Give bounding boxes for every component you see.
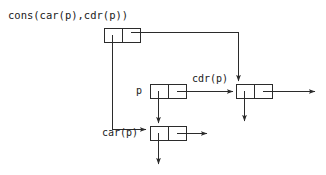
cons-expression-label: cons(car(p),cdr(p)) — [8, 10, 128, 21]
cdr-p-label: cdr(p) — [192, 73, 228, 84]
car-p-label: car(p) — [102, 127, 138, 138]
p-label: p — [136, 85, 142, 96]
cons-cell-diagram: cons(car(p),cdr(p)) p car(p) cdr(p) — [0, 0, 326, 175]
diagram-canvas — [0, 0, 326, 175]
cons-cell — [105, 29, 141, 43]
cons-car-pointer — [113, 35, 147, 130]
